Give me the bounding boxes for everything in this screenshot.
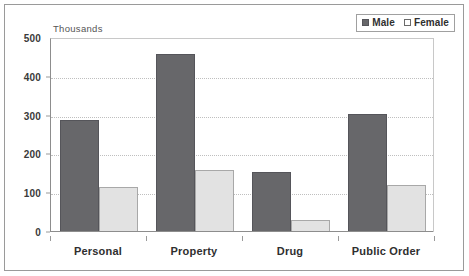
bars-layer: [51, 39, 433, 232]
x-axis-label-drug: Drug: [277, 245, 303, 257]
x-axis-tick-mark: [146, 236, 147, 241]
y-axis-tick-label: 400: [24, 71, 41, 82]
x-axis-label-personal: Personal: [74, 245, 122, 257]
x-axis-label-property: Property: [171, 245, 218, 257]
bar-personal-male[interactable]: [60, 120, 99, 232]
plot-area: [50, 38, 434, 232]
bar-drug-male[interactable]: [252, 172, 291, 232]
x-axis-tick-mark: [50, 236, 51, 241]
x-axis-tick-mark: [242, 236, 243, 241]
empty-square-icon: [404, 19, 411, 26]
axis-baseline: [51, 231, 433, 232]
legend-entry-female[interactable]: Female: [404, 17, 449, 28]
bar-group: [243, 39, 339, 232]
bar-property-female[interactable]: [195, 170, 234, 232]
bar-public-order-male[interactable]: [348, 114, 387, 232]
x-axis-label-public-order: Public Order: [352, 245, 420, 257]
x-axis: PersonalPropertyDrugPublic Order: [50, 236, 434, 266]
x-axis-tick-mark: [434, 236, 435, 241]
y-axis-tick-label: 300: [24, 110, 41, 121]
y-axis-tick-label: 100: [24, 188, 41, 199]
chart-frame: Thousands MaleFemale 0100200300400500 Pe…: [4, 4, 464, 271]
y-axis: 0100200300400500: [5, 38, 46, 232]
bar-group: [51, 39, 147, 232]
bar-property-male[interactable]: [156, 54, 195, 232]
chart-legend: MaleFemale: [356, 14, 455, 32]
legend-label: Female: [414, 17, 449, 28]
axis-unit-caption: Thousands: [53, 23, 103, 34]
legend-entry-male[interactable]: Male: [362, 17, 395, 28]
bar-group: [339, 39, 435, 232]
bar-personal-female[interactable]: [99, 187, 138, 232]
bar-public-order-female[interactable]: [387, 185, 426, 232]
y-axis-tick-label: 500: [24, 33, 41, 44]
x-axis-tick-mark: [338, 236, 339, 241]
y-axis-tick-label: 200: [24, 149, 41, 160]
y-axis-tick-label: 0: [35, 227, 41, 238]
filled-square-icon: [362, 19, 369, 26]
legend-label: Male: [372, 17, 395, 28]
bar-group: [147, 39, 243, 232]
